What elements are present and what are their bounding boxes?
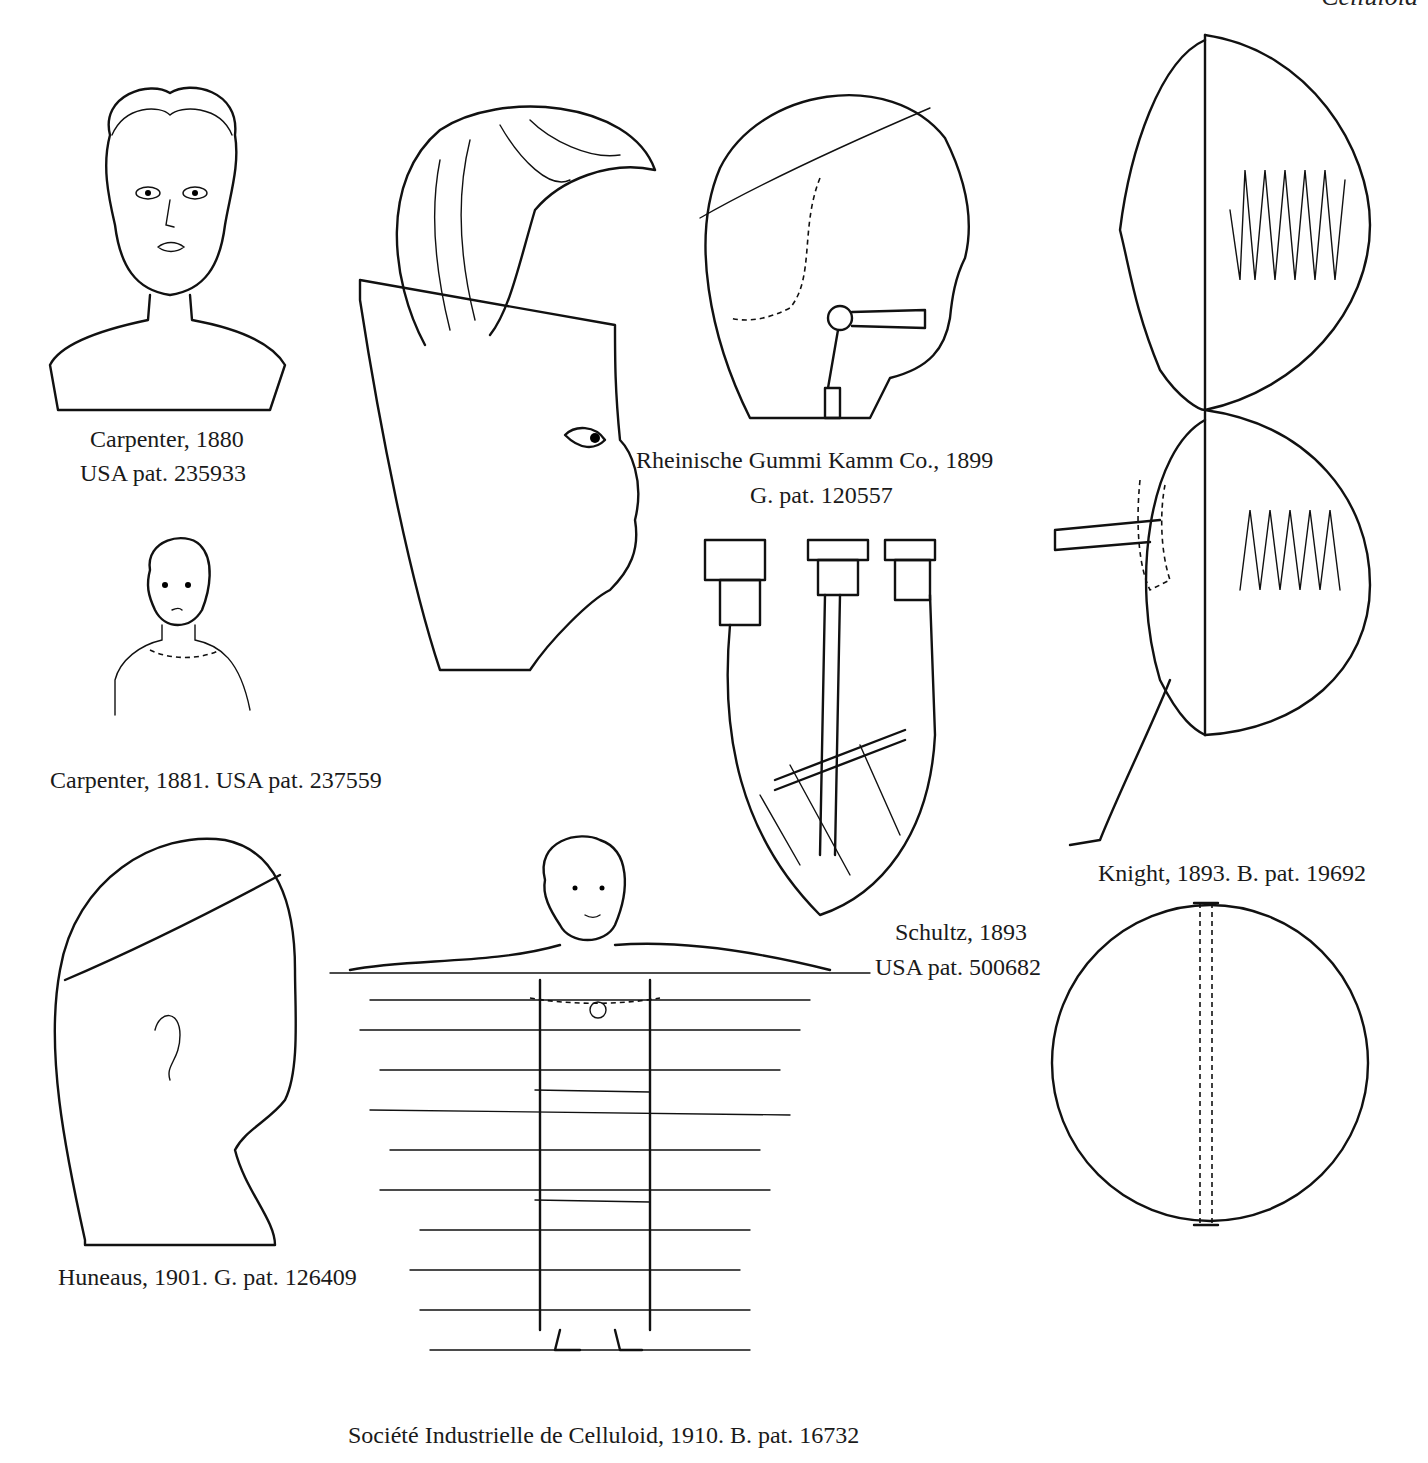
figure-huneaus-head — [45, 820, 315, 1250]
caption-carpenter-1881: Carpenter, 1881. USA pat. 237559 — [50, 765, 382, 796]
caption-carpenter-1880-line2: USA pat. 235933 — [80, 458, 246, 489]
figure-carpenter-1881-doll — [110, 530, 260, 720]
caption-carpenter-1880-line1: Carpenter, 1880 — [90, 424, 244, 455]
running-header-fragment: Celluloid — [1321, 0, 1418, 12]
figure-knight-sphere — [1050, 895, 1370, 1235]
caption-societe: Société Industrielle de Celluloid, 1910.… — [348, 1420, 859, 1451]
figure-knight-ball-doll — [1040, 30, 1380, 860]
caption-rheinische-line1: Rheinische Gummi Kamm Co., 1899 — [636, 445, 993, 476]
figure-carpenter-1880-bust — [40, 75, 300, 415]
figure-rheinische-head — [690, 78, 980, 438]
caption-schultz-line1: Schultz, 1893 — [895, 917, 1027, 948]
caption-schultz-line2: USA pat. 500682 — [875, 952, 1041, 983]
figure-wig-and-face-mask — [350, 80, 670, 680]
caption-knight: Knight, 1893. B. pat. 19692 — [1098, 858, 1366, 889]
caption-huneaus: Huneaus, 1901. G. pat. 126409 — [58, 1262, 357, 1293]
figure-societe-swimmer — [330, 830, 870, 1410]
caption-rheinische-line2: G. pat. 120557 — [750, 480, 893, 511]
